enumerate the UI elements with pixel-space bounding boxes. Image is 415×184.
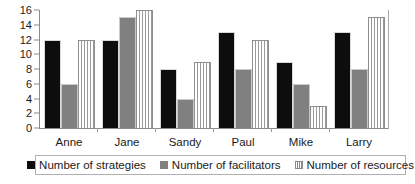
bar-group <box>98 10 156 128</box>
x-axis-tick-label: Jane <box>98 133 156 151</box>
bar <box>351 69 368 128</box>
bar <box>194 62 211 128</box>
chart-legend: Number of strategiesNumber of facilitato… <box>35 155 406 175</box>
plot-right-border <box>388 10 389 129</box>
y-axis-tick-label: 6 <box>26 78 32 89</box>
x-axis-tick-label: Sandy <box>156 133 214 151</box>
bar-groups-container <box>40 10 388 128</box>
bar <box>252 40 269 129</box>
x-axis-group-separator <box>155 128 156 132</box>
y-axis-tick-label: 14 <box>20 19 32 30</box>
bar-group <box>214 10 272 128</box>
bar <box>78 40 95 129</box>
x-axis-tick-label: Mike <box>272 133 330 151</box>
solid-gray-swatch-icon <box>160 161 168 169</box>
bar <box>276 62 293 128</box>
bar <box>310 106 327 128</box>
legend-label: Number of resources <box>307 159 414 171</box>
x-axis-line <box>39 128 389 129</box>
bar <box>368 17 385 128</box>
bar-group <box>330 10 388 128</box>
bar <box>136 10 153 128</box>
x-axis-tick-labels: AnneJaneSandyPaulMikeLarry <box>40 133 388 151</box>
bar <box>102 40 119 129</box>
legend-entry[interactable]: Number of facilitators <box>160 159 281 171</box>
y-axis-tick-label: 10 <box>20 49 32 60</box>
bar-group <box>40 10 98 128</box>
x-axis-group-separator <box>329 128 330 132</box>
y-axis-tick-labels: 0246810121416 <box>4 0 32 132</box>
legend-label: Number of facilitators <box>172 159 281 171</box>
y-axis-tick-label: 0 <box>26 123 32 134</box>
bar <box>61 84 78 128</box>
bar <box>293 84 310 128</box>
bar <box>44 40 61 129</box>
bar-group <box>272 10 330 128</box>
bar <box>160 69 177 128</box>
bar-chart: 0246810121416 AnneJaneSandyPaulMikeLarry… <box>0 0 415 184</box>
legend-label: Number of strategies <box>39 159 146 171</box>
striped-swatch-icon <box>295 161 303 169</box>
y-axis-tick-label: 12 <box>20 34 32 45</box>
bar <box>119 17 136 128</box>
bar-group <box>156 10 214 128</box>
x-axis-group-separator <box>271 128 272 132</box>
legend-entry[interactable]: Number of resources <box>295 159 414 171</box>
x-axis-tick-label: Paul <box>214 133 272 151</box>
x-axis-tick-label: Larry <box>330 133 388 151</box>
legend-entry[interactable]: Number of strategies <box>27 159 146 171</box>
bar <box>235 69 252 128</box>
y-axis-tick-label: 4 <box>26 93 32 104</box>
bar <box>334 32 351 128</box>
solid-black-swatch-icon <box>27 161 35 169</box>
bar <box>218 32 235 128</box>
bar <box>177 99 194 129</box>
y-axis-tick-label: 2 <box>26 108 32 119</box>
x-axis-group-separator <box>97 128 98 132</box>
y-axis-tick-label: 16 <box>20 5 32 16</box>
y-axis-tick-label: 8 <box>26 64 32 75</box>
plot-area: 0246810121416 <box>0 0 415 132</box>
x-axis-tick-label: Anne <box>40 133 98 151</box>
x-axis-group-separator <box>213 128 214 132</box>
